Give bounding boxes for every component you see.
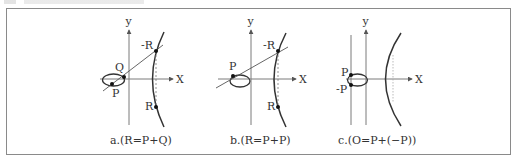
- caption-b: b.(R=P+P): [230, 134, 291, 147]
- y-axis-label: y: [247, 15, 255, 28]
- x-axis-label: X: [415, 73, 423, 86]
- point-p: [349, 73, 353, 77]
- y-axis-label: y: [125, 15, 133, 28]
- label-neg-r: -R: [263, 39, 276, 52]
- curve-branch: [274, 33, 286, 127]
- point-p: [110, 82, 114, 86]
- elliptic-curve-figure: y X Q P -R R a.(R=P+Q) y X P -R R b.(R=P…: [0, 0, 519, 163]
- point-q: [122, 75, 126, 79]
- point-r: [154, 105, 158, 109]
- label-neg-p: -P: [336, 83, 348, 96]
- label-neg-r: -R: [141, 39, 154, 52]
- caption-c: c.(O=P+(−P)): [338, 134, 416, 147]
- point-r: [276, 105, 280, 109]
- point-p: [231, 74, 235, 78]
- x-axis-label: X: [299, 73, 307, 86]
- y-axis-label: y: [362, 15, 370, 28]
- point-neg-p: [349, 83, 353, 87]
- point-neg-r: [276, 49, 280, 53]
- x-axis-label: X: [176, 73, 184, 86]
- caption-a: a.(R=P+Q): [110, 134, 172, 147]
- label-p: P: [112, 87, 120, 100]
- tangent-line: [216, 47, 288, 88]
- label-p: P: [229, 60, 237, 73]
- label-r: R: [145, 100, 154, 113]
- label-q: Q: [115, 61, 124, 74]
- panel-c: y X P -P c.(O=P+(−P)): [336, 15, 423, 147]
- label-p: P: [341, 66, 349, 79]
- label-r: R: [267, 100, 276, 113]
- panel-a: y X Q P -R R a.(R=P+Q): [100, 15, 184, 147]
- point-neg-r: [154, 49, 158, 53]
- panel-b: y X P -R R b.(R=P+P): [216, 15, 307, 147]
